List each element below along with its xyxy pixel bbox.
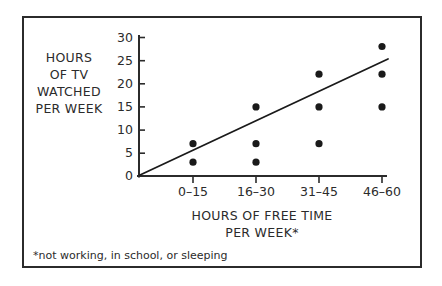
- data-point: [252, 159, 259, 166]
- y-tick-label-10: 10: [117, 122, 133, 137]
- data-point: [252, 140, 259, 147]
- scatter-chart: HOURS OF TV WATCHED PER WEEK 30 25 20 15…: [0, 0, 442, 286]
- x-axis-title-line-1: HOURS OF FREE TIME: [191, 208, 332, 223]
- x-tick-label-0-15: 0–15: [178, 184, 208, 199]
- y-axis-title-line-1: HOURS: [46, 50, 93, 65]
- y-axis-title: HOURS OF TV WATCHED PER WEEK: [36, 50, 103, 116]
- y-axis-tick-labels: 30 25 20 15 10 5 0: [117, 30, 133, 183]
- figure-root: HOURS OF TV WATCHED PER WEEK 30 25 20 15…: [0, 0, 442, 286]
- data-point: [378, 43, 385, 50]
- y-tick-label-25: 25: [117, 53, 133, 68]
- data-points: [189, 43, 385, 166]
- data-point: [252, 103, 259, 110]
- y-tick-label-15: 15: [117, 99, 133, 114]
- y-axis-title-line-2: OF TV: [50, 67, 89, 82]
- data-point: [315, 71, 322, 78]
- x-tick-label-16-30: 16–30: [237, 184, 275, 199]
- x-tick-label-46-60: 46–60: [363, 184, 401, 199]
- data-point: [189, 159, 196, 166]
- y-axis-title-line-4: PER WEEK: [36, 101, 103, 116]
- x-axis-tick-labels: 0–15 16–30 31–45 46–60: [178, 184, 401, 199]
- y-tick-label-0: 0: [125, 168, 133, 183]
- data-point: [315, 103, 322, 110]
- y-tick-label-5: 5: [125, 145, 133, 160]
- data-point: [315, 140, 322, 147]
- y-tick-label-20: 20: [117, 76, 133, 91]
- data-point: [378, 103, 385, 110]
- footnote: *not working, in school, or sleeping: [33, 249, 227, 262]
- data-point: [189, 140, 196, 147]
- x-axis-title: HOURS OF FREE TIME PER WEEK*: [191, 208, 332, 240]
- x-tick-label-31-45: 31–45: [300, 184, 338, 199]
- x-axis-title-line-2: PER WEEK*: [225, 225, 298, 240]
- trend-line: [140, 59, 388, 175]
- data-point: [378, 71, 385, 78]
- y-tick-label-30: 30: [117, 30, 133, 45]
- x-axis-ticks: [193, 176, 382, 183]
- y-axis-title-line-3: WATCHED: [37, 84, 101, 99]
